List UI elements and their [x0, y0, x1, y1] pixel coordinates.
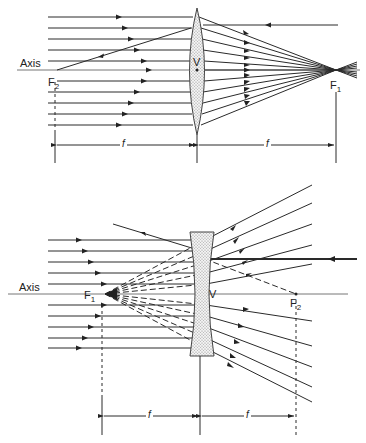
focal-label-f1-bottom: F1 — [84, 290, 95, 304]
vertex-label-bottom: V — [209, 289, 216, 300]
dimension-label-left-bottom: f — [146, 410, 153, 420]
incoming-arrowheads — [116, 15, 152, 128]
converging-lens-diagram — [17, 8, 360, 163]
lens-diagram — [0, 0, 366, 443]
focal-point-marker — [105, 288, 117, 300]
dimension-label-left-top: f — [120, 139, 127, 149]
focal-label-f2-bottom: F2 — [290, 298, 301, 312]
incoming-rays — [48, 17, 193, 125]
axis-label-bottom: Axis — [19, 282, 40, 293]
diverging-lens-diagram — [8, 185, 357, 435]
vertex-point — [196, 69, 199, 72]
dimension-label-right-top: f — [264, 139, 271, 149]
converging-rays — [199, 17, 357, 125]
focal-label-f2-top: F2 — [48, 77, 59, 91]
focal-label-f1-top: F1 — [330, 80, 341, 94]
dimension-label-right-bottom: f — [244, 410, 251, 420]
converging-arrowheads — [243, 30, 250, 106]
vertex-label-top: V — [193, 57, 200, 68]
axis-label-top: Axis — [20, 58, 41, 69]
